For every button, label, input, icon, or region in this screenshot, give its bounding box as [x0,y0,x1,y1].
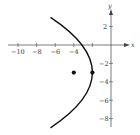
y-tick-label: −8 [99,115,109,123]
graph: x y −10 −8 −6 −4 2 −2 −4 −6 −8 [0,0,140,135]
x-axis-arrow-icon [124,43,130,47]
y-tick-label: 2 [103,23,107,31]
x-tick-label: −8 [32,48,42,56]
parabola-curve [51,17,93,127]
y-tick-label: −6 [99,97,109,105]
y-tick-label: −4 [99,78,109,86]
vertex-point [90,71,94,75]
x-axis-label: x [131,41,135,49]
x-tick-label: −6 [51,48,61,56]
y-tick-label: −2 [99,60,109,68]
y-axis-label: y [107,2,112,10]
x-tick-label: −4 [69,48,79,56]
x-tick-label: −10 [11,48,25,56]
focus-point [72,71,76,75]
